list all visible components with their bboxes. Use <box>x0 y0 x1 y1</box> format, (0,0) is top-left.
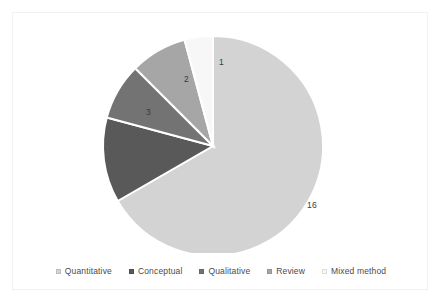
legend-item-quantitative[interactable]: Quantitative <box>56 266 112 276</box>
legend-swatch-icon <box>267 269 272 274</box>
legend-item-conceptual[interactable]: Conceptual <box>129 266 183 276</box>
pie-chart-plot-area: 16 3 2 1 <box>13 13 429 253</box>
legend-label: Quantitative <box>65 266 112 276</box>
slice-label-mixed-method: 1 <box>219 57 224 67</box>
chart-legend: QuantitativeConceptualQualitativeReviewM… <box>13 259 429 283</box>
legend-label: Mixed method <box>331 266 386 276</box>
slice-label-qualitative: 2 <box>184 74 189 84</box>
chart-frame: 16 3 2 1 QuantitativeConceptualQualitati… <box>12 12 428 290</box>
legend-swatch-icon <box>129 269 134 274</box>
legend-swatch-icon <box>56 269 61 274</box>
legend-label: Review <box>276 266 305 276</box>
slice-label-quantitative: 16 <box>307 200 317 210</box>
pie-slices-group <box>103 36 323 253</box>
pie-chart-svg <box>13 13 429 253</box>
legend-swatch-icon <box>322 269 327 274</box>
legend-item-qualitative[interactable]: Qualitative <box>199 266 250 276</box>
legend-item-mixed-method[interactable]: Mixed method <box>322 266 386 276</box>
legend-label: Qualitative <box>208 266 250 276</box>
legend-swatch-icon <box>199 269 204 274</box>
legend-label: Conceptual <box>138 266 183 276</box>
legend-item-review[interactable]: Review <box>267 266 305 276</box>
slice-label-conceptual: 3 <box>146 107 151 117</box>
